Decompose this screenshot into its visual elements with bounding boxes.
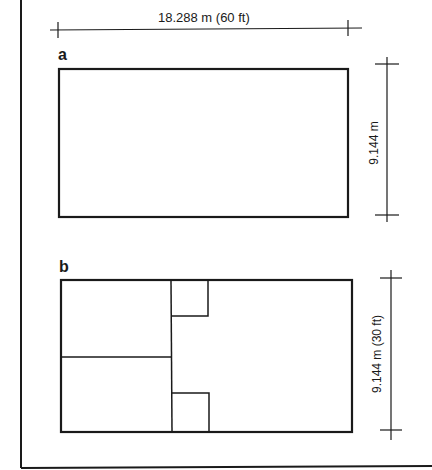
height-dimension-a-label: 9.144 m — [367, 103, 381, 183]
panel-b-label: b — [59, 258, 69, 276]
room-b-outline — [61, 280, 352, 432]
top-dimension-label: 18.288 m (60 ft) — [158, 10, 250, 25]
height-dimension-b-label: 9.144 m (30 ft) — [370, 299, 384, 409]
panel-a-label: a — [58, 46, 67, 64]
room-a-outline — [59, 69, 348, 217]
floor-plan-diagram — [0, 0, 432, 470]
frame-bottom-line — [21, 466, 432, 468]
